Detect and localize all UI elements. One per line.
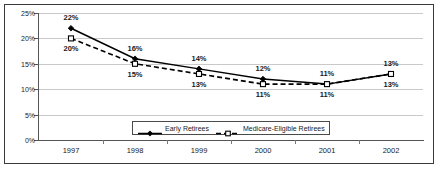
- data-point-label: 16%: [127, 44, 142, 53]
- legend-label: Early Retirees: [165, 125, 209, 132]
- data-point-marker: [389, 71, 394, 76]
- legend-dashed-line-square-icon: [215, 124, 241, 133]
- series-line: [71, 38, 391, 84]
- legend-entry-1[interactable]: Early Retirees: [137, 124, 209, 133]
- chart-legend[interactable]: Early RetireesMedicare-Eligible Retirees: [132, 121, 330, 135]
- data-point-label: 11%: [320, 69, 335, 78]
- data-point-marker: [261, 82, 266, 87]
- data-point-label: 15%: [127, 70, 142, 79]
- data-point-label: 22%: [63, 13, 78, 22]
- legend-entry-2[interactable]: Medicare-Eligible Retirees: [215, 124, 325, 133]
- series-line: [71, 28, 391, 84]
- series-2: [69, 36, 394, 87]
- data-point-marker: [196, 66, 202, 72]
- legend-label: Medicare-Eligible Retirees: [243, 125, 325, 132]
- legend-solid-line-diamond-icon: [137, 124, 163, 133]
- data-point-marker: [69, 36, 74, 41]
- data-point-marker: [260, 76, 266, 82]
- data-point-label: 13%: [383, 59, 398, 68]
- data-series-layer: [5, 5, 435, 165]
- data-point-marker: [132, 56, 138, 62]
- data-point-marker: [325, 82, 330, 87]
- data-point-label: 20%: [63, 44, 78, 53]
- chart-frame: 0%5%10%15%20%25% 19971998199920002001200…: [4, 4, 434, 164]
- data-point-label: 13%: [383, 80, 398, 89]
- data-point-label: 12%: [255, 64, 270, 73]
- data-point-marker: [133, 61, 138, 66]
- data-point-label: 11%: [320, 90, 335, 99]
- data-point-marker: [197, 71, 202, 76]
- data-point-marker: [68, 25, 74, 31]
- data-point-label: 11%: [256, 90, 271, 99]
- plot-outer: 0%5%10%15%20%25% 19971998199920002001200…: [5, 5, 433, 163]
- data-point-label: 13%: [191, 80, 206, 89]
- data-point-label: 14%: [191, 54, 206, 63]
